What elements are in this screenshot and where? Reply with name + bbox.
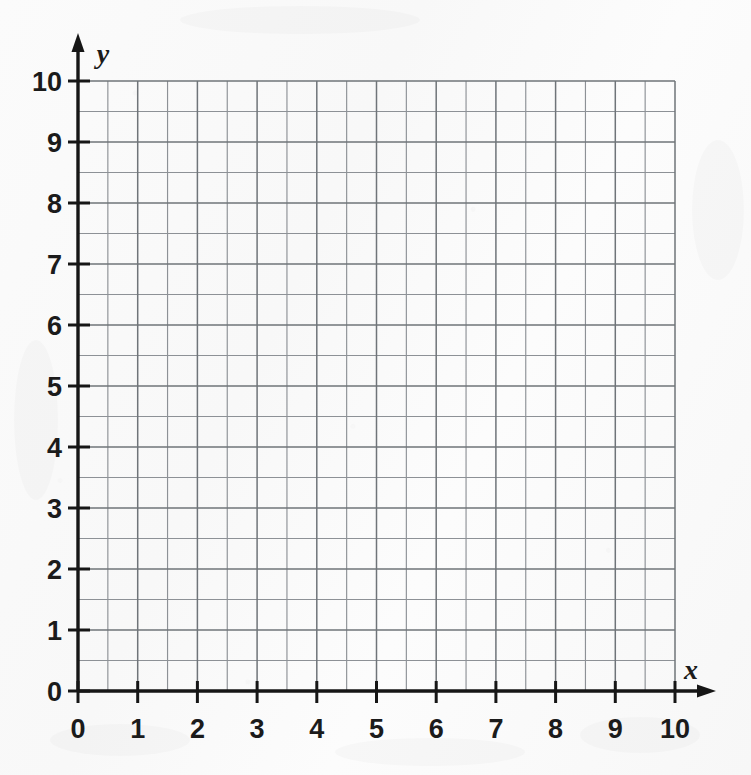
x-tick-label: 9 <box>608 714 623 744</box>
y-tick-label: 0 <box>47 677 62 707</box>
y-tick-label: 5 <box>47 372 62 402</box>
x-tick-label: 2 <box>190 714 205 744</box>
y-axis-arrow-icon <box>72 33 85 52</box>
x-tick-label: 3 <box>250 714 265 744</box>
y-axis-label: y <box>94 38 110 69</box>
x-axis-arrow-icon <box>697 685 716 698</box>
y-tick-label: 4 <box>47 433 62 463</box>
x-tick-label: 8 <box>548 714 563 744</box>
y-axis <box>72 33 85 691</box>
y-tick-label: 7 <box>47 250 62 280</box>
graph-page: 10 9 8 7 6 5 4 3 2 1 0 0 1 2 3 4 5 6 7 8… <box>0 0 751 775</box>
y-tick-label: 3 <box>47 494 62 524</box>
x-axis-label: x <box>683 654 698 685</box>
y-tick-label: 1 <box>47 616 62 646</box>
x-tick-label: 5 <box>369 714 384 744</box>
y-tick-label: 9 <box>47 128 62 158</box>
y-tick-label: 8 <box>47 189 62 219</box>
x-tick-label: 6 <box>429 714 444 744</box>
y-tick-label: 2 <box>47 555 62 585</box>
y-tick-label: 10 <box>32 67 62 97</box>
x-tick-label: 10 <box>660 714 690 744</box>
x-tick-label: 0 <box>70 714 85 744</box>
x-tick-label: 7 <box>488 714 503 744</box>
x-tick-label: 1 <box>130 714 145 744</box>
x-axis <box>78 685 716 698</box>
coordinate-grid-figure: 10 9 8 7 6 5 4 3 2 1 0 0 1 2 3 4 5 6 7 8… <box>0 0 751 775</box>
x-tick-label: 4 <box>309 714 324 744</box>
y-tick-label: 6 <box>47 311 62 341</box>
